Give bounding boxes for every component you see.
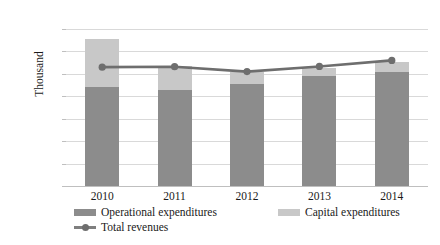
bar-segment[interactable] (375, 72, 409, 186)
legend-swatch-capital-icon (278, 209, 300, 216)
x-tick-label: 2014 (362, 190, 422, 202)
bar-segment[interactable] (302, 68, 336, 76)
legend-item-total-revenues[interactable]: Total revenues (74, 221, 168, 233)
bar-group[interactable] (302, 29, 336, 186)
y-tick-mark (62, 141, 66, 142)
bar-segment[interactable] (85, 39, 119, 87)
legend-label-operational: Operational expenditures (101, 206, 217, 218)
bar-group[interactable] (230, 29, 264, 186)
y-tick-mark (62, 74, 66, 75)
bar-group[interactable] (375, 29, 409, 186)
chart-legend: Operational expenditures Capital expendi… (74, 206, 424, 236)
y-axis-title: Thousand (33, 29, 45, 119)
legend-swatch-operational-icon (74, 209, 96, 216)
bar-segment[interactable] (158, 90, 192, 186)
y-tick-mark (62, 51, 66, 52)
bar-segment[interactable] (158, 66, 192, 90)
bar-segment[interactable] (230, 72, 264, 84)
x-tick-label: 2010 (72, 190, 132, 202)
legend-label-capital: Capital expenditures (305, 206, 400, 218)
legend-label-total-revenues: Total revenues (101, 221, 168, 233)
y-tick-mark (62, 96, 66, 97)
legend-item-operational-expenditures[interactable]: Operational expenditures (74, 206, 217, 218)
gridline (66, 186, 428, 187)
x-tick-label: 2011 (145, 190, 205, 202)
bar-segment[interactable] (375, 62, 409, 72)
y-tick-mark (62, 119, 66, 120)
chart-container: Thousand 70 00060 00050 00040 00030 0002… (0, 0, 440, 245)
bar-segment[interactable] (230, 84, 264, 186)
x-tick-label: 2013 (289, 190, 349, 202)
y-tick-mark (62, 29, 66, 30)
legend-row-2: Total revenues (74, 221, 424, 236)
bar-segment[interactable] (302, 76, 336, 186)
legend-line-marker-icon (74, 223, 96, 232)
legend-item-capital-expenditures[interactable]: Capital expenditures (278, 206, 400, 218)
y-tick-mark (62, 186, 66, 187)
bar-group[interactable] (158, 29, 192, 186)
bar-segment[interactable] (85, 87, 119, 186)
plot-area (66, 29, 428, 186)
bar-group[interactable] (85, 29, 119, 186)
x-tick-label: 2012 (217, 190, 277, 202)
y-tick-mark (62, 164, 66, 165)
legend-row-1: Operational expenditures Capital expendi… (74, 206, 424, 221)
